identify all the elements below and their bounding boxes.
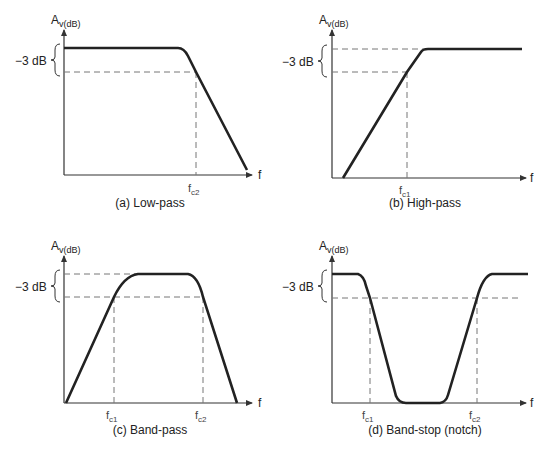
brace-icon (51, 270, 60, 302)
response-curve (64, 48, 247, 170)
response-curve (66, 274, 237, 403)
x-axis-label: f (530, 396, 534, 410)
db-annotation: −3 dB (15, 54, 47, 68)
panel-caption: (d) Band-stop (notch) (368, 423, 481, 437)
x-axis-label: f (530, 171, 534, 185)
response-curve (332, 274, 528, 403)
db-annotation: −3 dB (282, 55, 314, 69)
x-axis-label: f (258, 168, 262, 182)
cutoff-label-2: fc2 (469, 409, 481, 424)
panel-band-pass: −3 dB Av(dB) f fc1 fc2 (c) Band-pass (15, 239, 262, 437)
panel-caption: (a) Low-pass (115, 196, 184, 210)
y-axis-label: Av(dB) (51, 239, 81, 255)
db-annotation: −3 dB (282, 280, 314, 294)
cutoff-label-1: fc1 (362, 409, 374, 424)
brace-icon (51, 44, 60, 76)
brace-icon (318, 270, 327, 302)
panel-band-stop: −3 dB Av(dB) f fc1 fc2 (d) Band-stop (no… (282, 239, 534, 437)
cutoff-label-2: fc2 (195, 409, 207, 424)
x-axis-label: f (258, 396, 262, 410)
response-curve (343, 49, 522, 178)
panel-high-pass: −3 dB Av(dB) f fc1 (b) High-pass (282, 13, 534, 210)
brace-icon (318, 45, 327, 77)
cutoff-label-1: fc1 (106, 409, 118, 424)
panel-caption: (b) High-pass (389, 196, 461, 210)
filter-response-diagram: −3 dB Av(dB) f fc2 (a) Low-pass −3 dB Av… (0, 0, 548, 450)
y-axis-label: Av(dB) (319, 239, 349, 255)
y-axis-label: Av(dB) (319, 13, 349, 29)
db-annotation: −3 dB (15, 280, 47, 294)
panel-low-pass: −3 dB Av(dB) f fc2 (a) Low-pass (15, 13, 262, 210)
panel-caption: (c) Band-pass (113, 423, 188, 437)
cutoff-label: fc2 (188, 182, 200, 197)
y-axis-label: Av(dB) (51, 13, 81, 29)
